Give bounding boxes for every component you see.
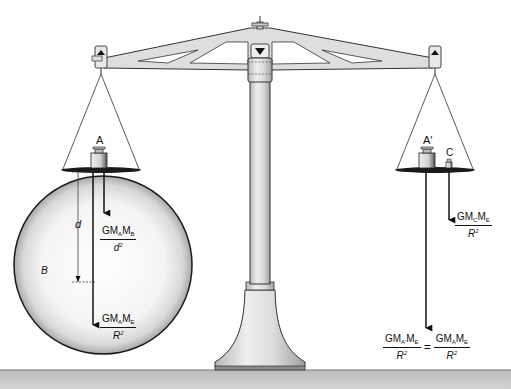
left-hanger <box>92 46 107 74</box>
right-hanger <box>429 46 441 74</box>
weight-c <box>446 159 452 168</box>
label-mass-c: C <box>446 148 453 158</box>
label-distance-d: d <box>75 219 81 230</box>
ground <box>0 370 511 389</box>
equation-balance: GMA'ME R2 = GMAME R2 <box>383 333 470 361</box>
equals-sign: = <box>424 340 431 354</box>
formula-force-a-e-right: GMAME R2 <box>434 333 470 361</box>
formula-force-ab: GMAMB d2 <box>100 225 136 253</box>
label-mass-a: A <box>96 135 103 146</box>
stand-post <box>250 78 270 284</box>
formula-force-ae-left: GMAME R2 <box>100 313 136 341</box>
balance-diagram: A A′ C B d GMAMB d2 GMAME R2 GMCME R2 GM… <box>0 0 511 389</box>
label-mass-a-prime: A′ <box>423 135 432 146</box>
label-sphere-b: B <box>41 266 48 276</box>
weight-a-prime <box>419 147 435 168</box>
stand-base <box>215 290 305 367</box>
diagram-canvas <box>0 0 511 389</box>
formula-force-ce: GMCME R2 <box>455 211 492 239</box>
formula-force-a-prime-e: GMA'ME R2 <box>383 333 421 361</box>
weight-a <box>91 147 107 168</box>
